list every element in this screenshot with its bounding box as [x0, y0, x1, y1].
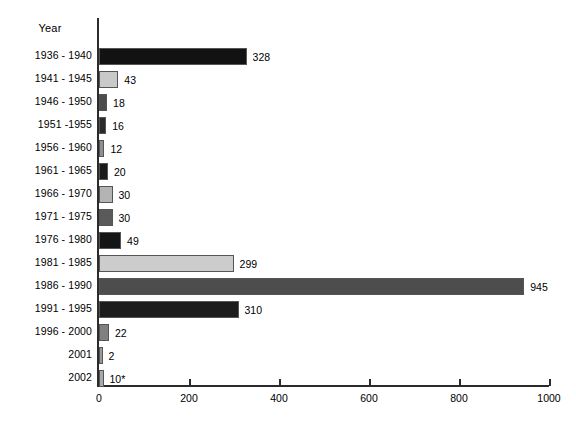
bar-1941-1945 [99, 71, 118, 88]
bar-value-label: 945 [530, 281, 548, 293]
x-tick-label-200: 200 [164, 392, 214, 404]
bar-1936-1940 [99, 48, 247, 65]
bar-1981-1985 [99, 255, 234, 272]
bar-value-label: 22 [115, 327, 127, 339]
x-tick-label-800: 800 [434, 392, 484, 404]
x-tick-label-1000: 1000 [524, 392, 574, 404]
y-axis-category-labels: 1936 - 19401941 - 19451946 - 19501951 -1… [0, 0, 92, 438]
bar-value-label: 43 [124, 74, 136, 86]
category-label: 1986 - 1990 [0, 279, 92, 291]
category-label: 1991 - 1995 [0, 302, 92, 314]
bar-2002 [99, 370, 104, 387]
category-label: 1971 - 1975 [0, 210, 92, 222]
plot-area: 02004006008001000 3284318161220303049299… [99, 18, 559, 386]
bar-value-label: 299 [240, 258, 258, 270]
category-label: 1951 -1955 [0, 118, 92, 130]
bar-value-label: 18 [113, 97, 125, 109]
bar-1991-1995 [99, 301, 239, 318]
x-tick-label-600: 600 [344, 392, 394, 404]
bar-value-label: 49 [127, 235, 139, 247]
category-label: 2002 [0, 371, 92, 383]
bar-value-label: 310 [245, 304, 263, 316]
bar-value-label: 30 [119, 189, 131, 201]
bar-value-label: 12 [110, 143, 122, 155]
category-label: 1996 - 2000 [0, 325, 92, 337]
category-label: 1976 - 1980 [0, 233, 92, 245]
bar-2001 [99, 347, 103, 364]
category-label: 1941 - 1945 [0, 72, 92, 84]
bar-1996-2000 [99, 324, 109, 341]
bar-value-label: 16 [112, 120, 124, 132]
category-label: 1936 - 1940 [0, 49, 92, 61]
bar-1956-1960 [99, 140, 104, 157]
bar-1961-1965 [99, 163, 108, 180]
x-tick-200 [189, 379, 191, 386]
x-tick-800 [459, 379, 461, 386]
x-tick-600 [369, 379, 371, 386]
bar-1946-1950 [99, 94, 107, 111]
x-tick-400 [279, 379, 281, 386]
bar-value-label: 10* [110, 373, 126, 385]
bar-1976-1980 [99, 232, 121, 249]
category-label: 2001 [0, 348, 92, 360]
x-axis-line [97, 385, 549, 387]
x-tick-label-400: 400 [254, 392, 304, 404]
x-tick-label-0: 0 [74, 392, 124, 404]
category-label: 1981 - 1985 [0, 256, 92, 268]
category-label: 1966 - 1970 [0, 187, 92, 199]
category-label: 1956 - 1960 [0, 141, 92, 153]
category-label: 1961 - 1965 [0, 164, 92, 176]
bar-value-label: 2 [109, 350, 115, 362]
bar-1986-1990 [99, 278, 524, 295]
bar-1951-1955 [99, 117, 106, 134]
bar-1971-1975 [99, 209, 113, 226]
bar-chart: Year 1936 - 19401941 - 19451946 - 195019… [0, 0, 576, 438]
bar-1966-1970 [99, 186, 113, 203]
x-tick-1000 [549, 379, 551, 386]
category-label: 1946 - 1950 [0, 95, 92, 107]
bar-value-label: 328 [253, 51, 271, 63]
bar-value-label: 20 [114, 166, 126, 178]
bar-value-label: 30 [119, 212, 131, 224]
